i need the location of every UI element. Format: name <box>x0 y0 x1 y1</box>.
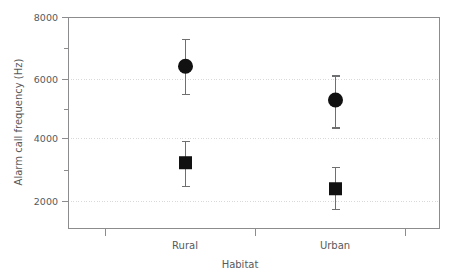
scatter-plot-svg: 8000 6000 4000 2000 Rural Urban Habitat … <box>0 0 465 278</box>
data-points-layer <box>178 39 343 209</box>
data-point-circle-rural <box>178 39 193 95</box>
y-tick-labels: 8000 6000 4000 2000 <box>34 12 58 207</box>
marker-circle <box>178 59 193 74</box>
plot-frame <box>68 17 440 229</box>
gridlines <box>68 79 440 201</box>
x-label-rural: Rural <box>172 240 198 251</box>
marker-square <box>179 156 192 169</box>
data-point-square-urban <box>329 167 342 209</box>
y-axis-minor-ticks <box>64 49 68 171</box>
y-tick-label-2000: 2000 <box>34 196 58 207</box>
data-point-circle-urban <box>328 75 343 128</box>
data-point-square-rural <box>179 141 192 186</box>
chart-figure: 8000 6000 4000 2000 Rural Urban Habitat … <box>0 0 465 278</box>
x-category-labels: Rural Urban <box>172 240 350 251</box>
x-axis-ticks <box>106 228 406 236</box>
marker-circle <box>328 92 343 107</box>
y-axis-title: Alarm call frequency (Hz) <box>13 58 24 185</box>
y-tick-label-4000: 4000 <box>34 133 58 144</box>
y-tick-label-6000: 6000 <box>34 74 58 85</box>
x-axis-title: Habitat <box>222 259 259 270</box>
x-label-urban: Urban <box>320 240 350 251</box>
marker-square <box>329 182 342 195</box>
y-tick-label-8000: 8000 <box>34 12 58 23</box>
